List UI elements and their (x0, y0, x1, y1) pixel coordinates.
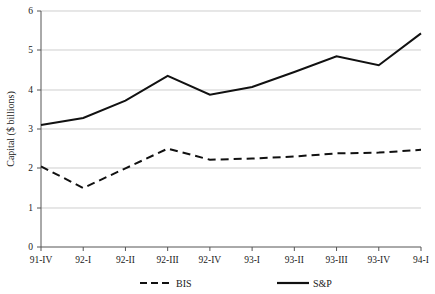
x-tick-label: 91-IV (30, 255, 53, 265)
x-tick-labels: 91-IV92-I92-II92-III92-IV93-I93-II93-III… (30, 255, 429, 265)
chart-legend: BIS S&P (140, 278, 332, 289)
y-tick-label-2: 2 (28, 163, 33, 173)
y-tick-label-6: 6 (28, 6, 33, 16)
data-series (41, 33, 421, 188)
y-tick-label-3: 3 (28, 124, 33, 134)
y-tick-label-5: 5 (28, 45, 33, 55)
y-tick-label-4: 4 (28, 85, 33, 95)
series-line-sp (41, 33, 421, 125)
x-tick-label: 92-III (157, 255, 179, 265)
y-tickmarks (37, 11, 41, 247)
gridlines (41, 11, 421, 208)
x-tick-label: 93-I (244, 255, 260, 265)
chart-container: 6 5 4 3 2 1 0 Capital ($ billions) 91-IV… (0, 0, 435, 294)
x-tick-label: 94-I (413, 255, 429, 265)
x-tick-label: 92-IV (199, 255, 222, 265)
x-tick-label: 93-III (325, 255, 347, 265)
y-tick-label-1: 1 (28, 203, 33, 213)
x-tickmarks (41, 247, 421, 251)
legend-label-sp: S&P (313, 278, 332, 289)
y-tick-label-0: 0 (28, 242, 33, 252)
legend-label-bis: BIS (176, 278, 192, 289)
x-tick-label: 93-IV (367, 255, 390, 265)
line-chart: 6 5 4 3 2 1 0 Capital ($ billions) 91-IV… (0, 0, 435, 294)
x-tick-label: 92-II (116, 255, 135, 265)
y-axis-title: Capital ($ billions) (5, 91, 17, 167)
x-tick-label: 93-II (285, 255, 304, 265)
y-tick-labels: 6 5 4 3 2 1 0 (28, 6, 33, 252)
x-tick-label: 92-I (75, 255, 91, 265)
